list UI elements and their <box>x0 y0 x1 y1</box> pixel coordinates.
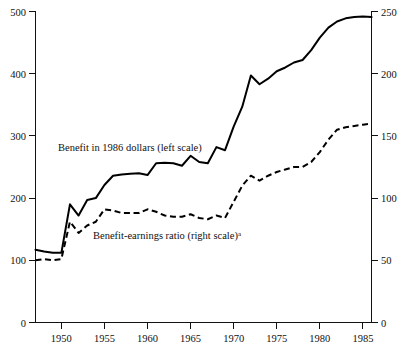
left-axis-label-200: 200 <box>10 193 26 204</box>
x-axis-label-1960: 1960 <box>137 333 158 344</box>
chart-background <box>0 0 399 352</box>
right-axis-label-50: 50 <box>381 255 392 266</box>
x-axis-label-1950: 1950 <box>51 333 72 344</box>
right-axis-label-100: 100 <box>381 193 397 204</box>
left-axis-label-500: 500 <box>10 7 26 18</box>
left-axis-label-400: 400 <box>10 69 26 80</box>
x-axis-label-1980: 1980 <box>309 333 330 344</box>
right-axis-label-150: 150 <box>381 131 397 142</box>
annotation-text: Benefit in 1986 dollars (left scale) <box>58 142 202 154</box>
annotation-text: Benefit-earnings ratio (right scale) <box>93 230 238 242</box>
annotation-benefit-earnings-ratio: Benefit-earnings ratio (right scale)a <box>93 230 242 243</box>
right-axis-label-0: 0 <box>381 318 386 329</box>
x-axis-label-1955: 1955 <box>94 333 115 344</box>
annotation-benefit-dollars: Benefit in 1986 dollars (left scale) <box>58 142 202 154</box>
x-axis-label-1975: 1975 <box>266 333 287 344</box>
left-axis-label-300: 300 <box>10 131 26 142</box>
x-axis-label-1985: 1985 <box>352 333 373 344</box>
left-axis-label-0: 0 <box>21 318 26 329</box>
right-axis-label-250: 250 <box>381 7 397 18</box>
chart-svg: 500 400 300 200 100 0 250 200 150 100 50… <box>0 0 399 352</box>
chart-figure: 500 400 300 200 100 0 250 200 150 100 50… <box>0 0 399 352</box>
x-axis-label-1970: 1970 <box>223 333 244 344</box>
right-axis-label-200: 200 <box>381 69 397 80</box>
left-axis-label-100: 100 <box>10 255 26 266</box>
x-axis-label-1965: 1965 <box>180 333 201 344</box>
